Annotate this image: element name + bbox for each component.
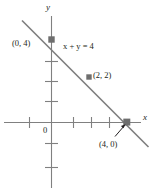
point-label-2-2: (2, 2): [93, 71, 111, 80]
graph-figure: y x 0 (0, 4) (2, 2) (4, 0) x + y = 4: [0, 0, 155, 191]
point-label-0-4: (0, 4): [12, 39, 30, 48]
arrow-to-point-4-0: [115, 124, 126, 136]
point-marker-2-2: [86, 74, 91, 79]
point-label-4-0: (4, 0): [99, 140, 117, 149]
point-marker-4-0: [123, 119, 130, 126]
origin-label: 0: [43, 126, 47, 135]
x-axis-label: x: [143, 113, 147, 122]
point-marker-0-4: [48, 36, 54, 42]
y-axis-label: y: [46, 3, 50, 12]
equation-label: x + y = 4: [63, 42, 94, 51]
line-x-plus-y-equals-4: [22, 21, 149, 148]
coordinate-plane-svg: [0, 0, 155, 191]
